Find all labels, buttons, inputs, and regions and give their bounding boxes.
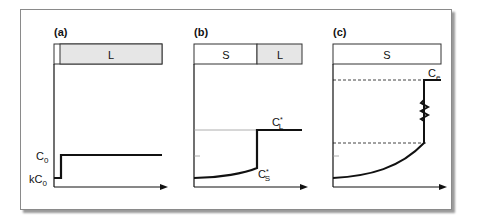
solid-label-b: S <box>222 49 229 61</box>
concentration-profile-c <box>333 80 441 178</box>
panel-b: (b) S L C*L C*S <box>194 26 308 190</box>
arrow-icon <box>160 184 168 190</box>
cs-star-label: C*S <box>258 168 270 183</box>
solidification-diagram: (a) L C0 kC0 (b) S L C*L C*S (c) S <box>0 0 484 222</box>
panel-b-label: (b) <box>194 26 208 38</box>
liquid-label-a: L <box>108 49 114 61</box>
panel-c: (c) S Ce <box>333 26 447 190</box>
panel-a: (a) L C0 kC0 <box>29 26 168 190</box>
concentration-profile-b <box>194 130 302 178</box>
concentration-profile-a <box>54 155 162 178</box>
kc0-label: kC0 <box>29 173 47 188</box>
panel-c-label: (c) <box>333 26 347 38</box>
panel-a-label: (a) <box>54 26 68 38</box>
cl-star-label: C*L <box>272 116 284 131</box>
liquid-label-b: L <box>277 49 283 61</box>
c0-label: C0 <box>36 150 49 165</box>
arrow-icon <box>300 184 308 190</box>
arrow-icon <box>439 184 447 190</box>
solid-label-c: S <box>383 49 390 61</box>
